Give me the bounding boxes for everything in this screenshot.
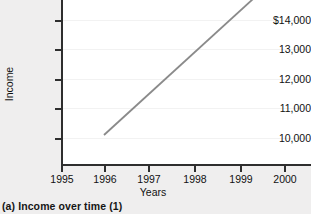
y-axis-tick-label: 12,000	[259, 73, 311, 85]
y-axis-tick-label: $14,000	[259, 14, 311, 26]
income-trend-line	[104, 0, 253, 135]
x-axis-tick	[194, 166, 196, 172]
y-axis-tick	[55, 79, 62, 81]
y-axis-title: Income	[3, 54, 15, 114]
x-axis-tick-label: 2000	[263, 173, 307, 185]
y-axis-tick-label: 10,000	[259, 132, 311, 144]
y-axis-line	[61, 0, 63, 166]
y-axis-tick	[55, 108, 62, 110]
y-axis-tick-label: 11,000	[259, 102, 311, 114]
x-axis-title: Years	[118, 186, 188, 198]
x-axis-line	[61, 164, 311, 166]
y-axis-tick	[55, 20, 62, 22]
x-axis-tick	[61, 166, 63, 172]
x-axis-tick-label: 1999	[219, 173, 263, 185]
y-axis-tick	[55, 49, 62, 51]
figure-caption: (a) Income over time (1)	[2, 200, 122, 212]
x-axis-tick-label: 1997	[127, 173, 171, 185]
x-axis-tick	[240, 166, 242, 172]
y-axis-tick	[55, 138, 62, 140]
x-axis-tick	[284, 166, 286, 172]
x-axis-tick-label: 1996	[83, 173, 127, 185]
x-axis-tick-label: 1998	[173, 173, 217, 185]
y-axis-tick-label: 13,000	[259, 43, 311, 55]
x-axis-tick	[104, 166, 106, 172]
x-axis-tick-label: 1995	[40, 173, 84, 185]
x-axis-tick	[148, 166, 150, 172]
figure-income-over-time: $14,000 13,000 12,000 11,000 10,000 1995…	[0, 0, 311, 214]
